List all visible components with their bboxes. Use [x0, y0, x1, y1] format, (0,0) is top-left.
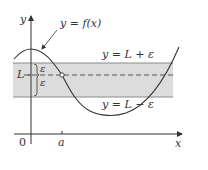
upper-bound-label: y = L + ε: [102, 49, 154, 60]
epsilon-upper-label: ε: [40, 64, 45, 74]
x-axis-label: x: [175, 138, 181, 149]
function-label: y = f(x): [60, 18, 101, 29]
limit-label: L: [17, 69, 24, 80]
epsilon-lower-label: ε: [40, 78, 45, 88]
origin-label: 0: [19, 137, 26, 148]
lower-bound-label: y = L − ε: [102, 99, 154, 110]
y-axis-label: y: [20, 14, 26, 25]
a-label: a: [58, 137, 65, 148]
hole-marker: [60, 73, 64, 77]
function-label-leader: [42, 30, 57, 49]
